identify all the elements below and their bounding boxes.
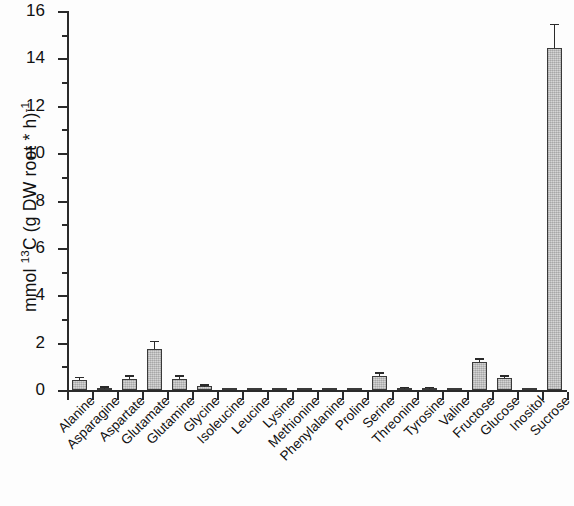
bar <box>497 378 513 390</box>
error-bar <box>129 377 131 379</box>
bar-chart-figure: mmol 13C (g DW root * h)-1 1614121086420… <box>0 0 574 506</box>
error-bar <box>479 360 481 362</box>
bar <box>447 388 463 390</box>
y-axis-tick-label: 0 <box>36 380 45 400</box>
y-axis-tick-minor <box>62 366 67 368</box>
bar <box>247 388 263 390</box>
y-axis-title-superscript-13: 13 <box>19 250 31 263</box>
y-axis-tick-major: 0 <box>58 390 67 392</box>
error-bar <box>204 386 206 387</box>
bar <box>472 362 488 390</box>
bar <box>347 388 363 390</box>
bar <box>372 376 388 390</box>
y-axis-tick-minor <box>62 224 67 226</box>
y-axis-tick-major: 14 <box>58 58 67 60</box>
error-bar-cap <box>400 387 409 389</box>
y-axis-tick-label: 6 <box>36 238 45 258</box>
y-axis-tick-major: 16 <box>58 11 67 13</box>
y-axis-tick-label: 16 <box>26 1 45 21</box>
y-axis-tick-minor <box>62 129 67 131</box>
y-axis-tick-label: 14 <box>26 48 45 68</box>
bar <box>547 48 563 390</box>
error-bar-cap <box>175 375 184 377</box>
y-axis-line <box>67 11 69 390</box>
error-bar-cap <box>475 358 484 360</box>
error-bar-cap <box>100 386 109 388</box>
error-bar-cap <box>125 375 134 377</box>
y-axis-tick-minor <box>62 35 67 37</box>
x-axis-tick <box>67 392 69 400</box>
error-bar <box>379 374 381 376</box>
y-axis-tick-major: 2 <box>58 343 67 345</box>
error-bar <box>154 342 156 349</box>
y-axis-tick-minor <box>62 272 67 274</box>
error-bar-cap <box>150 341 159 343</box>
error-bar-cap <box>425 387 434 389</box>
y-axis-tick-label: 8 <box>36 191 45 211</box>
y-axis-tick-major: 4 <box>58 295 67 297</box>
error-bar-cap <box>375 372 384 374</box>
y-axis-tick-label: 4 <box>36 285 45 305</box>
bar <box>297 388 313 390</box>
error-bar <box>79 378 81 380</box>
error-bar-cap <box>550 24 559 26</box>
y-axis-tick-label: 12 <box>26 96 45 116</box>
error-bar <box>179 377 181 379</box>
bar <box>222 388 238 390</box>
bar <box>72 380 88 390</box>
bar <box>272 388 288 390</box>
bar <box>147 349 163 390</box>
error-bar-cap <box>200 384 209 386</box>
error-bar-cap <box>500 375 509 377</box>
bar <box>197 386 213 390</box>
error-bar <box>554 25 556 48</box>
y-axis-tick-minor <box>62 177 67 179</box>
y-axis-tick-label: 2 <box>36 333 45 353</box>
bar <box>122 379 138 390</box>
y-axis-tick-major: 8 <box>58 201 67 203</box>
y-axis-tick-major: 10 <box>58 153 67 155</box>
y-axis-tick-major: 12 <box>58 106 67 108</box>
y-axis-tick-major: 6 <box>58 248 67 250</box>
y-axis-tick-label: 10 <box>26 143 45 163</box>
bar <box>522 388 538 390</box>
y-axis-title-mid: C (g DW root * h) <box>20 113 40 251</box>
plot-area: 1614121086420 <box>67 11 567 390</box>
y-axis-tick-minor <box>62 319 67 321</box>
y-axis-tick-minor <box>62 82 67 84</box>
error-bar <box>504 377 506 378</box>
bar <box>172 379 188 390</box>
error-bar-cap <box>75 377 84 379</box>
bar <box>322 388 338 390</box>
